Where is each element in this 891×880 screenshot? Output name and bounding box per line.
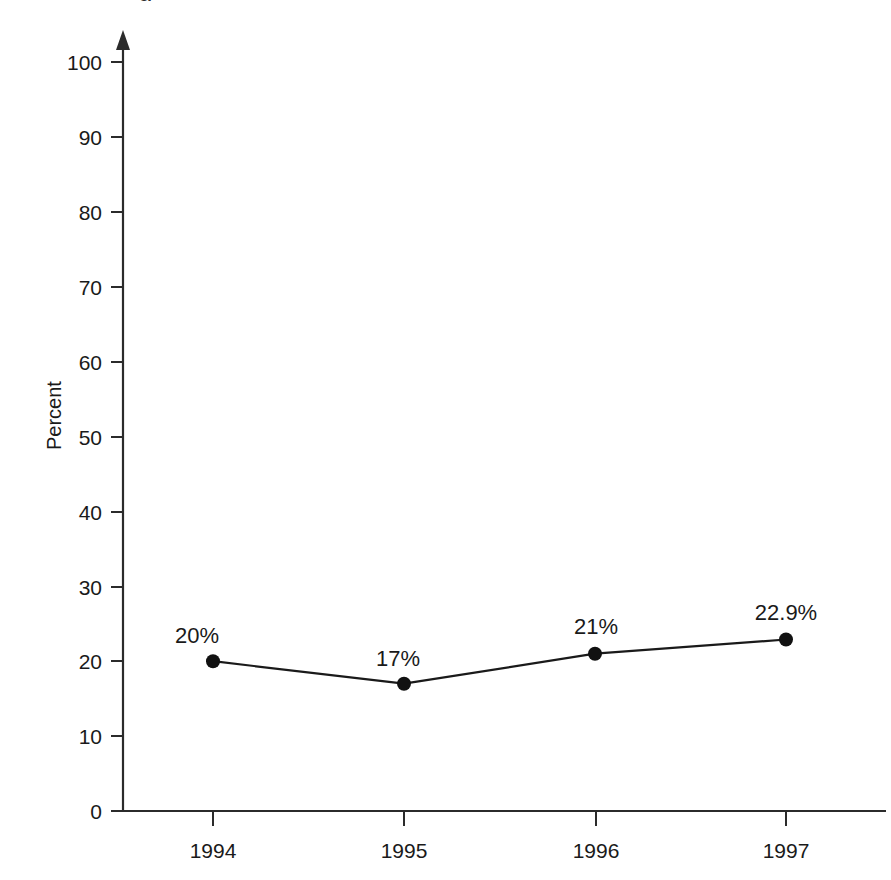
y-tick-label-50: 50	[44, 427, 102, 448]
x-axis-ticks	[213, 811, 786, 826]
y-tick-label-60: 60	[44, 352, 102, 373]
data-point-1994	[206, 654, 220, 668]
y-tick-label-80: 80	[44, 202, 102, 223]
y-tick-label-0: 0	[44, 801, 102, 822]
y-tick-label-10: 10	[44, 726, 102, 747]
y-tick-label-20: 20	[44, 651, 102, 672]
y-tick-label-30: 30	[44, 577, 102, 598]
x-tick-label-1996: 1996	[546, 840, 646, 861]
data-label-1996: 21%	[546, 616, 646, 638]
y-axis-arrow-icon	[116, 30, 130, 50]
data-label-1994: 20%	[147, 625, 247, 647]
y-axis	[116, 30, 130, 811]
y-tick-label-70: 70	[44, 277, 102, 298]
data-point-1995	[397, 677, 411, 691]
data-point-1997	[779, 633, 793, 647]
data-label-1995: 17%	[348, 648, 448, 670]
y-tick-label-40: 40	[44, 502, 102, 523]
line-chart: g	[0, 0, 891, 880]
y-tick-label-90: 90	[44, 127, 102, 148]
y-axis-ticks	[111, 62, 123, 811]
data-point-1996	[588, 647, 602, 661]
x-tick-label-1994: 1994	[163, 840, 263, 861]
chart-canvas	[0, 0, 891, 880]
y-tick-label-100: 100	[44, 52, 102, 73]
series-percent	[206, 633, 793, 691]
x-tick-label-1995: 1995	[354, 840, 454, 861]
x-tick-label-1997: 1997	[736, 840, 836, 861]
data-label-1997: 22.9%	[731, 602, 841, 624]
